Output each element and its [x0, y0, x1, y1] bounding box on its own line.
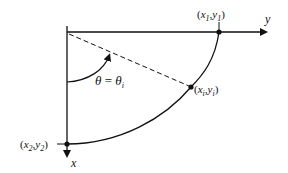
y-axis-label: y — [264, 12, 271, 26]
point-2-label: (x2,y2) — [20, 138, 48, 153]
x-axis-label: x — [70, 156, 77, 170]
angle-label: θ = θi — [95, 73, 124, 90]
point-1-label: (x1,y1) — [197, 8, 225, 23]
diagram-canvas: y x (x1,y1) (xi,yi) (x2,y2) θ = θi — [0, 0, 288, 173]
point-i-marker — [188, 84, 193, 89]
point-i-label: (xi,yi) — [194, 83, 219, 98]
